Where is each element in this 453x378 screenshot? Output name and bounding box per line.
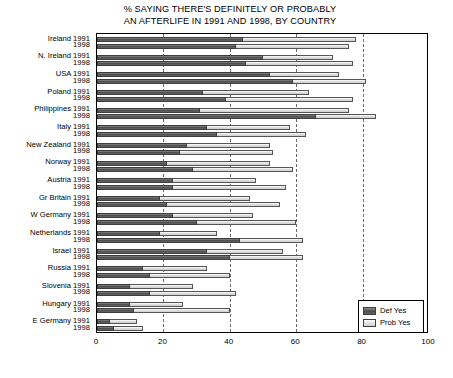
legend-swatch-prob-yes-icon	[363, 319, 376, 327]
bar-row	[97, 79, 366, 84]
chart-legend: Def Yes Prob Yes	[358, 300, 424, 333]
bar-segment-def-yes	[97, 213, 173, 218]
bar-rows	[97, 34, 427, 332]
bar-segment-prob-yes	[150, 291, 236, 296]
bar-segment-def-yes	[97, 196, 160, 201]
bar-row	[97, 273, 230, 278]
legend-label-def-yes: Def Yes	[380, 306, 406, 315]
bar-segment-prob-yes	[134, 308, 230, 313]
bar-row	[97, 231, 217, 236]
bar-row	[97, 132, 306, 137]
bar-segment-prob-yes	[197, 220, 297, 225]
bar-row	[97, 185, 286, 190]
y-axis-label-netherlands-1998: 1998	[73, 236, 90, 244]
bar-segment-def-yes	[97, 143, 187, 148]
bar-segment-def-yes	[97, 90, 203, 95]
x-axis-tick-labels: 020406080100	[0, 337, 453, 351]
y-axis-label-usa-1998: 1998	[73, 77, 90, 85]
bar-segment-prob-yes	[243, 37, 356, 42]
y-axis-label-poland-1998: 1998	[73, 94, 90, 102]
bar-row	[97, 108, 349, 113]
y-axis-label-austria-1998: 1998	[73, 183, 90, 191]
bar-segment-def-yes	[97, 97, 226, 102]
x-tick-label-100: 100	[421, 337, 434, 347]
bar-row	[97, 97, 353, 102]
bar-segment-def-yes	[97, 308, 134, 313]
bar-row	[97, 178, 256, 183]
bar-segment-def-yes	[97, 326, 114, 331]
bar-segment-def-yes	[97, 114, 316, 119]
x-tick-label-40: 40	[224, 337, 233, 347]
bar-segment-def-yes	[97, 79, 293, 84]
y-axis-label-norway-1998: 1998	[73, 165, 90, 173]
bar-segment-def-yes	[97, 231, 160, 236]
bar-segment-def-yes	[97, 150, 180, 155]
y-axis-label-russia-1998: 1998	[73, 271, 90, 279]
plot-area	[96, 33, 428, 333]
afterlife-bar-chart: % SAYING THERE'S DEFINITELY OR PROBABLY …	[0, 0, 453, 378]
bar-row	[97, 167, 293, 172]
bar-segment-def-yes	[97, 273, 150, 278]
bar-row	[97, 255, 303, 260]
bar-row	[97, 196, 250, 201]
bar-row	[97, 44, 349, 49]
bar-segment-def-yes	[97, 185, 173, 190]
y-axis-label-hungary-1998: 1998	[73, 306, 90, 314]
bar-segment-prob-yes	[240, 238, 303, 243]
y-axis-label-israel-1998: 1998	[73, 253, 90, 261]
y-axis-label-e-germany-1998: 1998	[73, 324, 90, 332]
chart-title-line-1: % SAYING THERE'S DEFINITELY OR PROBABLY	[60, 4, 400, 16]
bar-row	[97, 90, 309, 95]
bar-segment-def-yes	[97, 72, 270, 77]
bar-row	[97, 266, 207, 271]
bar-segment-prob-yes	[130, 284, 193, 289]
bar-row	[97, 61, 353, 66]
bar-segment-def-yes	[97, 44, 236, 49]
bar-row	[97, 249, 283, 254]
bar-segment-def-yes	[97, 55, 263, 60]
legend-swatch-def-yes-icon	[363, 307, 376, 315]
y-axis-label-n-ireland-1998: 1998	[73, 59, 90, 67]
y-axis-labels: Ireland 19911998N. Ireland 19911998USA 1…	[0, 33, 93, 333]
bar-segment-def-yes	[97, 255, 230, 260]
bar-segment-prob-yes	[187, 143, 270, 148]
bar-segment-def-yes	[97, 238, 240, 243]
bar-segment-def-yes	[97, 249, 207, 254]
bar-segment-prob-yes	[200, 108, 349, 113]
bar-row	[97, 319, 137, 324]
bar-segment-def-yes	[97, 220, 197, 225]
bar-segment-prob-yes	[114, 326, 144, 331]
bar-segment-prob-yes	[246, 61, 352, 66]
bar-row	[97, 37, 356, 42]
bar-segment-prob-yes	[167, 202, 280, 207]
chart-title: % SAYING THERE'S DEFINITELY OR PROBABLY …	[60, 4, 400, 27]
bar-row	[97, 72, 339, 77]
bar-row	[97, 150, 273, 155]
bar-segment-prob-yes	[180, 150, 273, 155]
bar-segment-prob-yes	[207, 249, 283, 254]
bar-segment-def-yes	[97, 284, 130, 289]
bar-segment-prob-yes	[203, 90, 309, 95]
bar-row	[97, 143, 270, 148]
x-tick-label-60: 60	[291, 337, 300, 347]
bar-segment-prob-yes	[236, 44, 349, 49]
bar-segment-prob-yes	[173, 185, 286, 190]
bar-segment-def-yes	[97, 125, 207, 130]
bar-segment-prob-yes	[130, 302, 183, 307]
bar-segment-prob-yes	[230, 255, 303, 260]
bar-segment-prob-yes	[270, 72, 340, 77]
bar-segment-def-yes	[97, 37, 243, 42]
bar-segment-def-yes	[97, 161, 167, 166]
bar-segment-prob-yes	[173, 213, 253, 218]
bar-segment-prob-yes	[160, 231, 216, 236]
bar-row	[97, 55, 333, 60]
bar-row	[97, 284, 193, 289]
bar-segment-def-yes	[97, 61, 246, 66]
y-axis-label-ireland-1998: 1998	[73, 41, 90, 49]
bar-segment-def-yes	[97, 202, 167, 207]
bar-segment-def-yes	[97, 291, 150, 296]
y-axis-label-new-zealand-1998: 1998	[73, 147, 90, 155]
bar-segment-prob-yes	[263, 55, 333, 60]
bar-row	[97, 302, 183, 307]
bar-segment-prob-yes	[316, 114, 376, 119]
